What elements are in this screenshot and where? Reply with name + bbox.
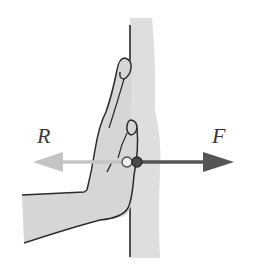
force-contact-point [132,157,142,167]
hand-pushing-wall-diagram: R F [0,0,256,271]
reaction-force-label: R [37,125,50,147]
reaction-contact-point [122,157,132,167]
applied-force-label: F [212,125,225,147]
hand [22,58,138,243]
